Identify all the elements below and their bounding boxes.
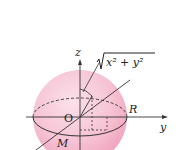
z-axis-label: z [74, 46, 81, 59]
sqrt-expression: x² + y² [97, 53, 155, 69]
z-axis-arrow-icon [78, 59, 82, 65]
y-axis-arrow-icon [162, 115, 168, 119]
radius-label: R [128, 103, 137, 116]
y-axis-label: y [159, 121, 167, 134]
origin-label: O [64, 112, 73, 125]
point-label: M [56, 137, 69, 150]
sphere-diagram: z y R O M x² + y² [0, 0, 176, 150]
sqrt-expression-text: x² + y² [106, 56, 143, 69]
